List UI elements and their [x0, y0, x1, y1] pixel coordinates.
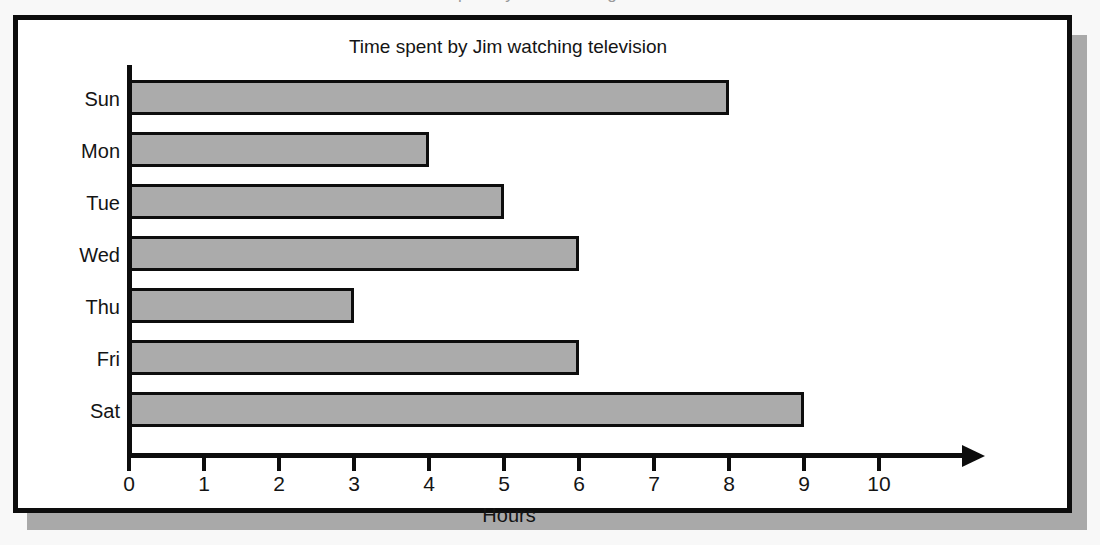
x-axis-title: Hours: [129, 504, 889, 527]
bar-category-label: Thu: [18, 296, 120, 319]
bar: [129, 132, 429, 167]
bar-row: Sat: [18, 389, 1067, 441]
x-axis-tick-mark: [352, 458, 356, 471]
x-axis-tick-mark: [502, 458, 506, 471]
x-axis-tick-label: 3: [324, 472, 384, 496]
x-axis-tick-label: 5: [474, 472, 534, 496]
x-axis-tick-mark: [202, 458, 206, 471]
x-axis-tick-label: 0: [99, 472, 159, 496]
x-axis-tick-mark: [127, 458, 131, 471]
x-axis-tick-label: 1: [174, 472, 234, 496]
x-axis-tick-label: 8: [699, 472, 759, 496]
x-axis-tick-label: 4: [399, 472, 459, 496]
x-axis-tick-label: 9: [774, 472, 834, 496]
chart-figure-frame: Time spent by Jim watching television Su…: [13, 15, 1072, 513]
bar: [129, 340, 579, 375]
x-axis-arrow-icon: [962, 445, 985, 467]
x-axis-tick-label: 2: [249, 472, 309, 496]
chart-plot-area: Time spent by Jim watching television Su…: [18, 20, 1067, 508]
x-axis-tick-mark: [652, 458, 656, 471]
scan-top-text-fragment: Time spent by Jim watching television: [0, 0, 1100, 13]
chart-title: Time spent by Jim watching television: [18, 36, 998, 58]
bar-row: Thu: [18, 285, 1067, 337]
bar: [129, 288, 354, 323]
bar: [129, 184, 504, 219]
scan-top-text-fragment-label: Time spent by Jim watching television: [408, 0, 693, 3]
bar-row: Mon: [18, 129, 1067, 181]
bar: [129, 80, 729, 115]
bar-category-label: Tue: [18, 192, 120, 215]
x-axis-tick-label: 10: [849, 472, 909, 496]
bar: [129, 392, 804, 427]
bar-row: Sun: [18, 77, 1067, 129]
bar-row: Fri: [18, 337, 1067, 389]
x-axis-tick-mark: [277, 458, 281, 471]
bar-row: Wed: [18, 233, 1067, 285]
bar-category-label: Sat: [18, 400, 120, 423]
x-axis-tick-mark: [427, 458, 431, 471]
x-axis-tick-label: 6: [549, 472, 609, 496]
x-axis-tick-mark: [577, 458, 581, 471]
x-axis-tick-mark: [802, 458, 806, 471]
x-axis-line: [127, 453, 967, 458]
bar-category-label: Sun: [18, 88, 120, 111]
x-axis-tick-mark: [877, 458, 881, 471]
bar-category-label: Mon: [18, 140, 120, 163]
bar-row: Tue: [18, 181, 1067, 233]
x-axis-tick-mark: [727, 458, 731, 471]
bar-category-label: Fri: [18, 348, 120, 371]
x-axis-tick-label: 7: [624, 472, 684, 496]
bar: [129, 236, 579, 271]
bar-category-label: Wed: [18, 244, 120, 267]
